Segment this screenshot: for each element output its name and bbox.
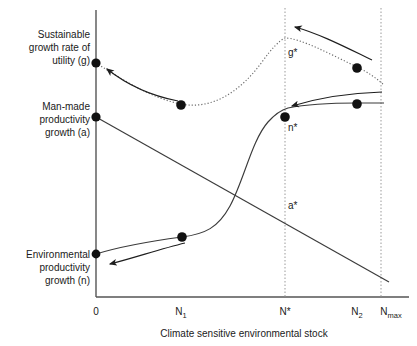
x-axis-title: Climate sensitive environmental stock: [160, 328, 328, 339]
xtick-nmax-sub: max: [388, 311, 402, 320]
marker-g-at-n1: [176, 100, 186, 110]
ylabel-a-line3: growth (a): [45, 127, 90, 138]
xtick-n1: N1: [175, 306, 186, 320]
ylabel-n-line1: Environmental: [26, 249, 90, 260]
xtick-n2: N2: [351, 306, 362, 320]
marker-a-at-0: [91, 112, 100, 121]
xtick-0: 0: [93, 306, 99, 317]
ylabel-a-line1: Man-made: [42, 101, 90, 112]
chart-figure: Sustainable growth rate of utility (g) M…: [0, 0, 417, 346]
marker-n-at-0: [92, 250, 101, 259]
dynamics-arrow-n-high: [292, 92, 382, 106]
ylabel-g-line2: growth rate of: [29, 42, 90, 53]
curve-label-a-star: a*: [288, 200, 298, 211]
ylabel-a-line2: productivity: [39, 114, 90, 125]
xtick-nmax: Nmax: [380, 306, 402, 320]
xtick-n2-base: N: [351, 306, 358, 317]
marker-n-at-nstar: [280, 112, 290, 122]
ylabel-g-line3: utility (g): [52, 55, 90, 66]
curve-n-star: [96, 103, 384, 254]
xtick-n1-base: N: [175, 306, 182, 317]
xtick-n2-sub: 2: [359, 311, 363, 320]
xtick-nstar: N*: [279, 306, 290, 317]
xtick-n1-sub: 1: [183, 311, 187, 320]
curve-label-n-star: n*: [288, 122, 298, 133]
marker-n-at-n2: [352, 99, 362, 109]
dynamics-arrow-g-low: [107, 69, 178, 101]
marker-n-at-n1: [177, 232, 187, 242]
ylabel-g-line1: Sustainable: [38, 29, 91, 40]
chart-svg: Sustainable growth rate of utility (g) M…: [0, 0, 417, 346]
ylabel-n-line2: productivity: [39, 262, 90, 273]
marker-g-at-n2: [352, 63, 362, 73]
xtick-nmax-base: N: [380, 306, 387, 317]
curve-a-star: [96, 117, 389, 282]
dynamics-arrow-n-low: [110, 243, 185, 264]
ylabel-n-line3: growth (n): [45, 275, 90, 286]
curve-label-g-star: g*: [288, 47, 298, 58]
marker-g-at-0: [91, 58, 100, 67]
